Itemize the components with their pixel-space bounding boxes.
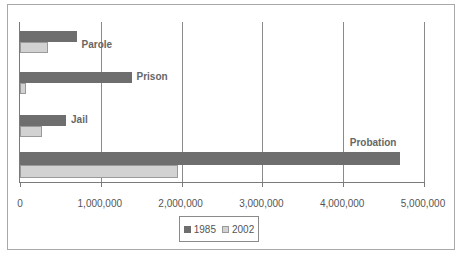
bar-jail-1985	[20, 115, 66, 126]
legend-swatch-1985	[184, 226, 191, 233]
bar-probation-2002	[20, 165, 178, 178]
x-tick-label: 0	[17, 198, 23, 209]
legend: 1985 2002	[179, 216, 259, 242]
bar-parole-2002	[20, 42, 48, 53]
gridline	[424, 22, 425, 182]
legend-item-2002: 2002	[222, 224, 254, 235]
legend-label-2002: 2002	[232, 224, 254, 235]
x-tick-label: 4,000,000	[320, 198, 365, 209]
legend-item-1985: 1985	[184, 224, 216, 235]
legend-swatch-2002	[222, 226, 229, 233]
bar-prison-2002	[20, 83, 26, 94]
x-tick-mark	[182, 182, 183, 187]
legend-label-1985: 1985	[194, 224, 216, 235]
x-tick-mark	[262, 182, 263, 187]
x-tick-mark	[20, 182, 21, 187]
x-tick-mark	[101, 182, 102, 187]
bar-probation-1985	[20, 152, 400, 165]
x-tick-label: 2,000,000	[158, 198, 203, 209]
x-tick-label: 5,000,000	[401, 198, 446, 209]
category-label-jail: Jail	[71, 114, 88, 125]
bar-parole-1985	[20, 31, 77, 42]
category-label-probation: Probation	[350, 137, 397, 148]
plot-area: ParolePrisonJailProbation	[19, 22, 424, 183]
bar-prison-1985	[20, 72, 132, 83]
category-label-parole: Parole	[82, 39, 113, 50]
x-tick-label: 3,000,000	[239, 198, 284, 209]
x-tick-label: 1,000,000	[78, 198, 123, 209]
bar-jail-2002	[20, 126, 42, 137]
x-tick-mark	[343, 182, 344, 187]
category-label-prison: Prison	[137, 71, 168, 82]
x-tick-mark	[424, 182, 425, 187]
